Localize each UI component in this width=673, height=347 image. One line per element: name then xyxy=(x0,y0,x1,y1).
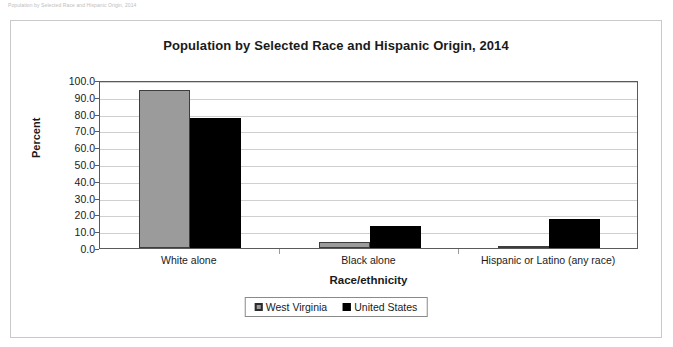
y-axis-tick-mark xyxy=(95,249,99,250)
y-axis-title: Percent xyxy=(30,118,42,158)
bar-group xyxy=(319,82,421,248)
legend-swatch-west-virginia-icon xyxy=(255,303,263,311)
y-axis-tick-label: 70.0 xyxy=(49,126,95,136)
y-axis-tick-label: 100.0 xyxy=(49,76,95,86)
x-axis-category-label: Hispanic or Latino (any race) xyxy=(458,254,638,266)
x-axis-title: Race/ethnicity xyxy=(99,274,638,286)
legend-item: United States xyxy=(343,301,417,313)
chart-title: Population by Selected Race and Hispanic… xyxy=(11,38,661,53)
bar-group xyxy=(498,82,600,248)
y-axis-tick-label: 30.0 xyxy=(49,194,95,204)
cutoff-caption-text: Population by Selected Race and Hispanic… xyxy=(8,0,308,10)
y-axis-tick-label: 80.0 xyxy=(49,110,95,120)
plot-area xyxy=(99,81,638,249)
y-axis-tick-label: 50.0 xyxy=(49,160,95,170)
y-axis-tick-label: 40.0 xyxy=(49,177,95,187)
bar-group xyxy=(139,82,241,248)
legend-label: United States xyxy=(354,301,417,313)
bar-west-virginia xyxy=(319,242,370,248)
bar-united-states xyxy=(549,219,600,248)
y-axis-tick-labels: 100.090.080.070.060.050.040.030.020.010.… xyxy=(45,81,95,249)
x-axis-category-label: White alone xyxy=(99,254,279,266)
y-axis-tick-label: 0.0 xyxy=(49,244,95,254)
x-axis-separator-tick xyxy=(458,249,459,254)
chart-figure-frame: Population by Selected Race and Hispanic… xyxy=(10,20,662,338)
bar-united-states xyxy=(370,226,421,248)
y-axis-tick-label: 60.0 xyxy=(49,143,95,153)
legend-swatch-united-states-icon xyxy=(343,303,351,311)
bar-west-virginia xyxy=(139,90,190,248)
y-axis-tick-label: 10.0 xyxy=(49,227,95,237)
chart-legend: West VirginiaUnited States xyxy=(245,297,428,317)
y-axis-tick-label: 90.0 xyxy=(49,93,95,103)
legend-label: West Virginia xyxy=(266,301,327,313)
bar-united-states xyxy=(190,118,241,248)
bar-west-virginia xyxy=(498,246,549,248)
legend-item: West Virginia xyxy=(255,301,327,313)
x-axis-category-label: Black alone xyxy=(279,254,459,266)
y-axis-tick-label: 20.0 xyxy=(49,210,95,220)
x-axis-separator-tick xyxy=(279,249,280,254)
